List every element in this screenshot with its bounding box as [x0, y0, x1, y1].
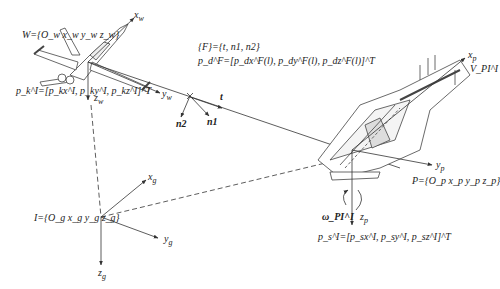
frenet-frame	[181, 93, 209, 117]
zp-axis-label: zp	[360, 212, 368, 225]
aircraft-position-equation: p_k^I=[p_kx^I, p_ky^I, p_kz^I]^T	[16, 86, 151, 96]
platform-position-equation: p_s^I=[p_sx^I, p_sy^I, p_sz^I]^T	[318, 232, 451, 242]
velocity-label: V_PI^I	[470, 64, 498, 74]
zg-axis-label: zg	[98, 268, 106, 281]
path-position-equation: p_d^F=[p_dx^F(l), p_dy^F(l), p_dz^F(l)]^…	[198, 56, 375, 66]
tangent-label: t	[220, 92, 223, 102]
world-frame-label: W={O_w x_w y_w z_w}	[22, 30, 119, 40]
yw-axis-label: yw	[162, 89, 172, 102]
n1-label: n1	[207, 117, 218, 127]
xw-axis-label: xw	[134, 10, 144, 23]
carrier-illustration	[318, 55, 470, 180]
n2-label: n2	[176, 119, 187, 129]
tangent-vector	[190, 97, 222, 108]
yg-axis-label: yg	[164, 234, 172, 247]
angular-velocity-label: ω_PI^I	[322, 212, 354, 222]
frenet-frame-label: {F}={t, n1, n2}	[198, 42, 260, 52]
xg-axis-label: xg	[148, 172, 156, 185]
platform-frame-label: P={O_p x_p y_p z_p}	[412, 176, 500, 186]
xp-axis-label: xp	[468, 50, 476, 63]
inertial-frame-label: I={O_g x_g y_g z_g}	[34, 213, 120, 223]
yp-axis-label: yp	[436, 160, 444, 173]
